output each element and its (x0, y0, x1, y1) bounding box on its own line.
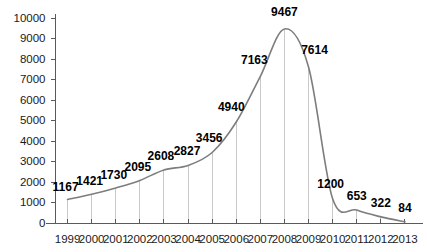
y-tick-label: 2000 (20, 176, 46, 188)
data-point-label: 3456 (196, 131, 223, 145)
data-point-label: 1167 (53, 180, 79, 194)
line-chart: 0100020003000400050006000700080009000100… (0, 0, 427, 252)
y-tick-label: 5000 (20, 114, 46, 126)
x-tick-label: 2001 (103, 233, 129, 245)
y-tick-label: 0 (39, 217, 45, 229)
x-axis-tick-marks (68, 219, 405, 224)
y-tick-label: 3000 (20, 155, 46, 167)
y-axis-tick-labels: 0100020003000400050006000700080009000100… (14, 12, 46, 230)
x-tick-label: 2007 (248, 233, 274, 245)
data-point-label: 2608 (148, 149, 175, 163)
x-tick-label: 2004 (175, 233, 201, 245)
x-axis-tick-labels: 1999200020012002200320042005200620072008… (55, 233, 418, 245)
x-tick-label: 2006 (223, 233, 249, 245)
data-point-label: 1200 (317, 177, 344, 191)
y-tick-label: 8000 (20, 53, 46, 65)
x-tick-label: 2011 (344, 233, 369, 245)
data-point-label: 7614 (301, 43, 328, 57)
data-point-label: 9467 (271, 5, 298, 19)
data-point-label: 322 (371, 196, 391, 210)
x-tick-label: 2013 (392, 233, 418, 245)
data-point-label: 7163 (241, 53, 268, 67)
data-point-label: 1730 (100, 168, 127, 182)
data-point-label: 2827 (174, 144, 201, 158)
y-tick-label: 10000 (14, 12, 46, 24)
y-tick-label: 6000 (20, 94, 46, 106)
data-point-label: 1421 (76, 174, 103, 188)
data-point-label: 84 (398, 201, 412, 215)
data-point-label: 4940 (218, 100, 245, 114)
data-point-labels: 1167142117302095260828273456494071639467… (53, 5, 412, 215)
chart-canvas: 0100020003000400050006000700080009000100… (0, 0, 427, 252)
x-tick-label: 1999 (55, 233, 81, 245)
y-tick-label: 1000 (20, 196, 46, 208)
x-tick-label: 2012 (368, 233, 394, 245)
y-tick-label: 4000 (20, 135, 46, 147)
x-tick-label: 2008 (272, 233, 298, 245)
x-tick-label: 2003 (151, 233, 177, 245)
x-tick-label: 2005 (199, 233, 225, 245)
x-tick-label: 2000 (79, 233, 105, 245)
y-tick-label: 7000 (20, 73, 46, 85)
data-point-label: 653 (347, 189, 367, 203)
x-tick-label: 2002 (127, 233, 153, 245)
x-tick-label: 2010 (320, 233, 346, 245)
x-tick-label: 2009 (296, 233, 322, 245)
y-tick-label: 9000 (20, 32, 46, 44)
